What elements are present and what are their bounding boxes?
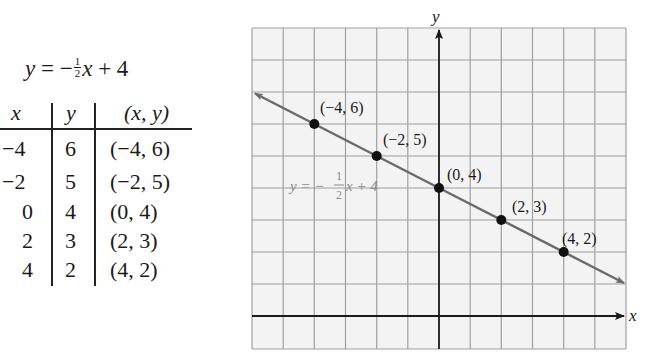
point-label: (−4, 6) <box>320 99 364 117</box>
svg-text:1: 1 <box>336 169 342 183</box>
point-label: (2, 3) <box>512 198 547 216</box>
point-label: (−2, 5) <box>383 131 427 149</box>
svg-text:2: 2 <box>336 188 342 202</box>
svg-text:x + 4: x + 4 <box>345 178 378 194</box>
y-axis-label: y <box>430 7 440 26</box>
data-point <box>496 215 506 225</box>
data-point <box>434 183 444 193</box>
x-axis-label: x <box>628 306 637 325</box>
coordinate-graph: x y (−4, 6) (−2, 5) (0, 4) (2, 3) (4, 2)… <box>0 0 648 362</box>
svg-text:y = −: y = − <box>288 178 324 194</box>
point-label: (0, 4) <box>447 166 482 184</box>
point-label: (4, 2) <box>562 230 597 248</box>
data-point <box>372 151 382 161</box>
data-point <box>559 247 569 257</box>
data-point <box>309 119 319 129</box>
